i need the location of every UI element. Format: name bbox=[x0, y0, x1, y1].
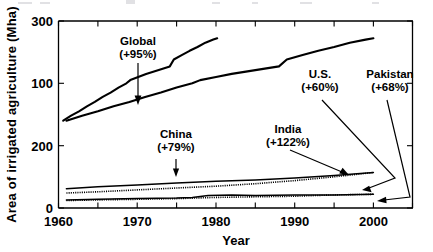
figure-container: 300 200 100 0 1960 1970 1980 1990 2000 Y… bbox=[0, 0, 433, 252]
irrigated-agriculture-line-chart: 300 200 100 0 1960 1970 1980 1990 2000 Y… bbox=[0, 0, 433, 252]
y-tick-label-200: 200 bbox=[31, 139, 53, 154]
x-axis-title: Year bbox=[222, 233, 249, 248]
annotation-pakistan: Pakistan (+68%) bbox=[366, 68, 413, 203]
annotation-india-arrow-shaft bbox=[290, 150, 342, 172]
annotation-pakistan-arrow-head bbox=[377, 197, 387, 204]
annotation-us-name: U.S. bbox=[309, 68, 331, 80]
annotation-pakistan-name: Pakistan bbox=[366, 68, 413, 80]
y-tick-label-300: 300 bbox=[31, 14, 53, 29]
annotation-china-name: China bbox=[160, 128, 193, 140]
annotation-us-arrow-head bbox=[362, 186, 372, 193]
annotation-pakistan-arrow-shaft bbox=[384, 100, 410, 200]
annotation-us-change: (+60%) bbox=[301, 81, 339, 93]
series-line-china bbox=[66, 173, 373, 189]
y-axis-title: Area of irrigated agriculture (Mha) bbox=[4, 6, 19, 222]
annotation-india: India (+122%) bbox=[266, 123, 349, 175]
annotation-india-arrow-head bbox=[339, 168, 349, 175]
x-tick-label-1970: 1970 bbox=[123, 214, 152, 229]
x-tick-label-2000: 2000 bbox=[359, 214, 388, 229]
series-line-us bbox=[66, 194, 373, 200]
x-tick-label-1990: 1990 bbox=[280, 214, 309, 229]
annotation-india-change: (+122%) bbox=[266, 136, 310, 148]
x-tick-label-1980: 1980 bbox=[202, 214, 231, 229]
x-tick-label-1960: 1960 bbox=[44, 214, 73, 229]
scan-artifact-top bbox=[18, 0, 379, 4]
annotation-china-arrow-head bbox=[173, 169, 179, 178]
y-tick-label-100: 100 bbox=[31, 76, 53, 91]
annotation-india-name: India bbox=[275, 123, 302, 135]
annotation-pakistan-change: (+68%) bbox=[371, 81, 409, 93]
annotation-global-name: Global bbox=[120, 35, 156, 47]
annotation-china-change: (+79%) bbox=[157, 141, 195, 153]
annotation-global-change: (+95%) bbox=[119, 48, 157, 60]
annotation-china: China (+79%) bbox=[157, 128, 195, 177]
